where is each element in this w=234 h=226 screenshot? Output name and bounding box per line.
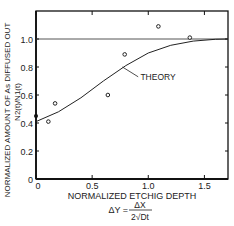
data-point [188, 36, 192, 40]
x-formula-lhs: ΔY = [108, 205, 128, 215]
y-tick-label: 0.2 [20, 147, 33, 157]
theory-curve [36, 39, 228, 122]
data-point [157, 25, 161, 29]
start-point [34, 114, 38, 118]
y-tick-label: 0.8 [20, 63, 33, 73]
x-tick-label: 1.0 [142, 181, 155, 191]
y-tick-label: 0.4 [20, 119, 33, 129]
theory-leader-line [122, 67, 138, 77]
x-tick-label: 1.5 [198, 181, 211, 191]
data-point [106, 93, 110, 97]
x-formula-numerator: ΔX [134, 200, 146, 210]
data-point [53, 102, 57, 106]
data-point [123, 53, 127, 57]
y-tick-label: 0 [28, 175, 33, 185]
y-axis-label-formula: N2(t)/N1(t) [13, 83, 22, 121]
theory-label: THEORY [140, 72, 176, 82]
y-tick-label: 1.0 [20, 35, 33, 45]
x-formula-denominator: 2√Dt [131, 212, 150, 222]
y-tick-label: 0.6 [20, 91, 33, 101]
x-axis-label: NORMALIZED ETCHIG DEPTH [68, 191, 197, 201]
x-tick-label: 0 [35, 181, 40, 191]
chart: 00.51.01.500.20.40.60.81.0THEORYNORMALIZ… [0, 0, 234, 226]
x-tick-label: 0.5 [86, 181, 99, 191]
data-point [47, 120, 51, 124]
plot-frame [36, 11, 228, 179]
y-axis-label: NORMALIZED AMOUNT OF As DIFFUSED OUT [3, 23, 12, 198]
